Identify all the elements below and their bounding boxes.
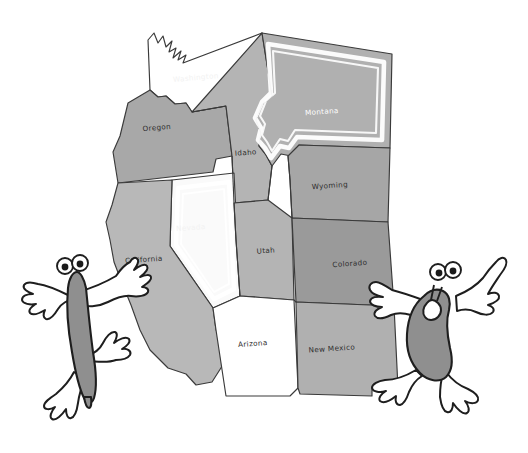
left-creature-tail-tip bbox=[84, 397, 91, 408]
right-creature-arm-right-pointing bbox=[456, 258, 507, 315]
right-creature-mouth bbox=[423, 300, 441, 320]
right-creature-eyes bbox=[430, 262, 461, 280]
left-creature-pupil-right bbox=[77, 261, 84, 268]
state-label-idaho: Idaho bbox=[235, 147, 257, 157]
right-creature-pupil-left bbox=[436, 270, 443, 277]
left-creature-pupil-left bbox=[62, 264, 69, 271]
map-illustration-svg: Washington Oregon Idaho Montana Wyoming … bbox=[0, 0, 528, 453]
left-creature-eyes bbox=[57, 255, 88, 274]
state-label-utah: Utah bbox=[256, 245, 275, 255]
illustration-canvas: Washington Oregon Idaho Montana Wyoming … bbox=[0, 0, 528, 453]
left-creature-arm-upper-left bbox=[22, 283, 72, 320]
cartoon-blob-left[interactable] bbox=[22, 255, 151, 419]
right-creature-pupil-right bbox=[450, 268, 457, 275]
